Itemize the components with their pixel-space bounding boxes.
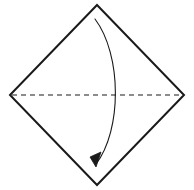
fold-diagram-container [0,0,194,190]
fold-diagram [0,0,194,190]
